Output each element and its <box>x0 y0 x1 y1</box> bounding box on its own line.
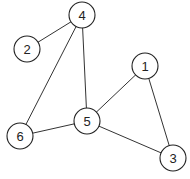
node-1: 1 <box>132 53 158 79</box>
edges <box>20 15 173 158</box>
node-label: 2 <box>23 42 30 57</box>
node-2: 2 <box>14 36 40 62</box>
node-4: 4 <box>69 2 95 28</box>
graph-diagram: 123456 <box>0 0 190 179</box>
node-label: 1 <box>141 59 148 74</box>
node-3: 3 <box>160 145 186 171</box>
edge-1-3 <box>145 66 173 158</box>
edge-5-3 <box>87 121 173 158</box>
node-label: 6 <box>16 129 23 144</box>
edge-4-5 <box>82 15 87 121</box>
node-label: 4 <box>78 8 85 23</box>
node-label: 5 <box>83 114 90 129</box>
node-5: 5 <box>74 108 100 134</box>
edge-4-6 <box>20 15 82 136</box>
nodes: 123456 <box>7 2 186 171</box>
node-label: 3 <box>169 151 176 166</box>
node-6: 6 <box>7 123 33 149</box>
